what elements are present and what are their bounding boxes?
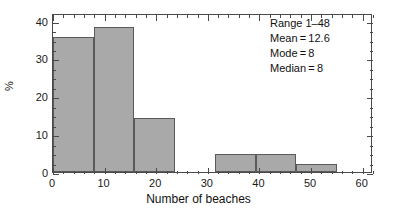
x-minor-tick <box>115 171 116 174</box>
x-major-tick <box>259 168 260 174</box>
x-minor-tick-top <box>146 15 147 18</box>
x-minor-tick <box>94 171 95 174</box>
x-minor-tick <box>198 171 199 174</box>
x-minor-tick <box>74 171 75 174</box>
x-major-tick-top <box>156 15 157 21</box>
x-minor-tick <box>218 171 219 174</box>
x-minor-tick <box>167 171 168 174</box>
x-tick-label: 60 <box>356 177 368 189</box>
y-major-tick-right <box>367 98 373 99</box>
x-major-tick <box>105 168 106 174</box>
x-minor-tick-top <box>249 15 250 18</box>
y-tick-label: 40 <box>22 16 48 28</box>
y-major-tick <box>53 60 59 61</box>
y-minor-tick-right <box>370 117 373 118</box>
y-minor-tick-right <box>370 108 373 109</box>
y-minor-tick <box>53 89 56 90</box>
x-tick-label: 0 <box>49 177 55 189</box>
y-major-tick <box>53 23 59 24</box>
x-major-tick-top <box>53 15 54 21</box>
x-minor-tick-top <box>332 15 333 18</box>
x-axis-title: Number of beaches <box>0 192 397 206</box>
annotation-mean: Mean = 12.6 <box>270 31 330 46</box>
y-minor-tick-right <box>370 70 373 71</box>
x-tick-label: 20 <box>149 177 161 189</box>
x-minor-tick <box>239 171 240 174</box>
y-minor-tick <box>53 51 56 52</box>
x-tick-label: 30 <box>201 177 213 189</box>
x-minor-tick-top <box>198 15 199 18</box>
x-minor-tick <box>146 171 147 174</box>
x-major-tick-top <box>363 15 364 21</box>
y-minor-tick-right <box>370 32 373 33</box>
x-tick-label: 10 <box>97 177 109 189</box>
x-minor-tick-top <box>136 15 137 18</box>
x-minor-tick <box>280 171 281 174</box>
y-minor-tick <box>53 70 56 71</box>
y-tick-label: 0 <box>22 167 48 179</box>
x-minor-tick <box>125 171 126 174</box>
y-minor-tick <box>53 146 56 147</box>
y-major-tick-right <box>367 174 373 175</box>
x-minor-tick-top <box>74 15 75 18</box>
y-axis-title: % <box>3 81 15 91</box>
x-minor-tick <box>187 171 188 174</box>
y-minor-tick <box>53 79 56 80</box>
x-minor-tick-top <box>239 15 240 18</box>
y-major-tick-right <box>367 136 373 137</box>
x-minor-tick <box>249 171 250 174</box>
x-tick-label: 40 <box>252 177 264 189</box>
statistics-annotation: Range 1–48 Mean = 12.6 Mode = 8 Median =… <box>270 16 330 76</box>
x-minor-tick-top <box>167 15 168 18</box>
y-minor-tick <box>53 165 56 166</box>
y-minor-tick <box>53 108 56 109</box>
x-minor-tick-top <box>228 15 229 18</box>
x-major-tick <box>363 168 364 174</box>
x-minor-tick <box>63 171 64 174</box>
x-minor-tick <box>228 171 229 174</box>
x-major-tick-top <box>259 15 260 21</box>
x-minor-tick <box>177 171 178 174</box>
y-major-tick-right <box>367 23 373 24</box>
y-tick-label: 20 <box>22 91 48 103</box>
x-minor-tick-top <box>115 15 116 18</box>
annotation-median: Median = 8 <box>270 61 330 76</box>
x-major-tick-top <box>105 15 106 21</box>
y-minor-tick <box>53 42 56 43</box>
x-minor-tick <box>321 171 322 174</box>
x-minor-tick-top <box>342 15 343 18</box>
x-minor-tick <box>136 171 137 174</box>
x-minor-tick-top <box>84 15 85 18</box>
x-tick-label: 50 <box>304 177 316 189</box>
x-minor-tick-top <box>177 15 178 18</box>
y-minor-tick-right <box>370 127 373 128</box>
annotation-range: Range 1–48 <box>270 16 330 31</box>
y-major-tick <box>53 174 59 175</box>
y-minor-tick-right <box>370 146 373 147</box>
x-minor-tick <box>373 171 374 174</box>
y-minor-tick <box>53 32 56 33</box>
x-major-tick <box>311 168 312 174</box>
y-minor-tick <box>53 155 56 156</box>
y-minor-tick-right <box>370 155 373 156</box>
x-minor-tick <box>84 171 85 174</box>
y-minor-tick-right <box>370 51 373 52</box>
y-minor-tick <box>53 117 56 118</box>
x-minor-tick-top <box>187 15 188 18</box>
y-minor-tick-right <box>370 42 373 43</box>
y-major-tick <box>53 136 59 137</box>
y-major-tick-right <box>367 60 373 61</box>
x-minor-tick-top <box>94 15 95 18</box>
y-minor-tick-right <box>370 165 373 166</box>
y-minor-tick-right <box>370 89 373 90</box>
x-minor-tick-top <box>373 15 374 18</box>
y-tick-label: 10 <box>22 129 48 141</box>
x-minor-tick <box>332 171 333 174</box>
y-minor-tick-right <box>370 79 373 80</box>
x-major-tick-top <box>208 15 209 21</box>
x-minor-tick <box>342 171 343 174</box>
x-major-tick <box>208 168 209 174</box>
x-major-tick <box>156 168 157 174</box>
x-minor-tick <box>290 171 291 174</box>
y-major-tick <box>53 98 59 99</box>
